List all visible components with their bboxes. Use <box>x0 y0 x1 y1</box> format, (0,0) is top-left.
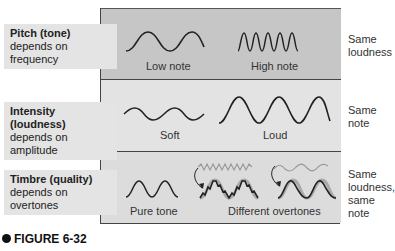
pitch-constant: Same loudness <box>348 33 392 59</box>
intensity-constant-line2: note <box>348 117 377 130</box>
timbre-constant-line2: loudness, <box>348 181 395 194</box>
high-note-caption: High note <box>251 60 298 72</box>
loud-wave <box>219 95 331 125</box>
intensity-title: Intensity (loudness) <box>10 105 111 131</box>
timbre-constant-line3: same <box>348 194 395 207</box>
timbre-label-box: Timbre (quality) depends on overtones <box>4 170 117 215</box>
overtone-2-combined-wave <box>278 178 336 200</box>
intensity-constant: Same note <box>348 104 377 130</box>
timbre-constant-line4: note <box>348 207 395 220</box>
figure-caption: FIGURE 6-32 <box>2 232 87 246</box>
low-note-wave <box>126 28 206 56</box>
soft-wave <box>124 104 206 124</box>
high-note-wave <box>238 30 308 54</box>
pitch-constant-line2: loudness <box>348 46 392 59</box>
pure-tone-wave <box>126 179 178 199</box>
timbre-title: Timbre (quality) <box>10 173 111 186</box>
pitch-desc-line2: frequency <box>10 53 111 66</box>
intensity-constant-line1: Same <box>348 104 377 117</box>
pitch-title: Pitch (tone) <box>10 27 111 40</box>
bullet-icon <box>2 234 11 243</box>
timbre-desc-line1: depends on <box>10 186 111 199</box>
figure-label: FIGURE 6-32 <box>14 232 87 246</box>
timbre-desc-line2: overtones <box>10 199 111 212</box>
pure-tone-caption: Pure tone <box>130 205 178 217</box>
low-note-caption: Low note <box>146 60 191 72</box>
intensity-label-box: Intensity (loudness) depends on amplitud… <box>4 102 117 160</box>
timbre-constant: Same loudness, same note <box>348 168 395 220</box>
pitch-label-box: Pitch (tone) depends on frequency <box>4 24 117 69</box>
pitch-desc-line1: depends on <box>10 40 111 53</box>
overtone-1-combined-wave <box>200 178 258 200</box>
different-overtones-caption: Different overtones <box>228 205 321 217</box>
loud-caption: Loud <box>263 129 287 141</box>
timbre-constant-line1: Same <box>348 168 395 181</box>
soft-caption: Soft <box>160 129 180 141</box>
intensity-desc: depends on amplitude <box>10 131 111 157</box>
pitch-constant-line1: Same <box>348 33 392 46</box>
